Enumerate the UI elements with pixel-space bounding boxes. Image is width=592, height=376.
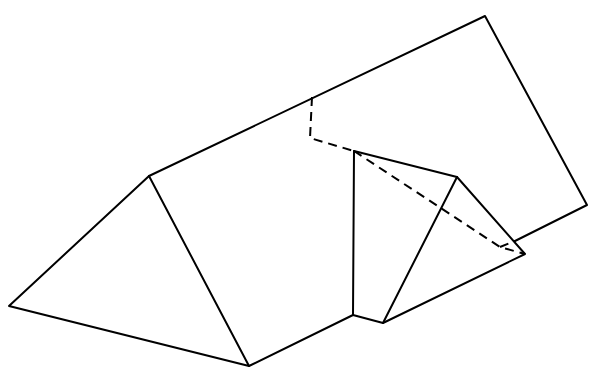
left-triangle-line — [9, 176, 249, 366]
prism-bottom-edge-line — [249, 315, 353, 366]
small-triangle-line — [353, 151, 525, 323]
hidden-diagonal-line — [354, 151, 525, 254]
plane-top-edge-line — [149, 16, 587, 241]
small-triangle-inner-line — [383, 177, 457, 323]
hidden-plane-edge-line — [500, 241, 515, 247]
vertical-edge-line — [353, 151, 354, 315]
prism-plane-diagram — [0, 0, 592, 376]
hidden-bend-line — [310, 97, 354, 151]
